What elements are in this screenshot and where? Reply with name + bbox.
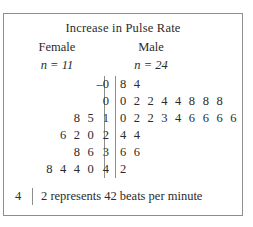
key-divider-rule: [32, 188, 33, 205]
stem-value: 4: [87, 161, 109, 178]
plot-key: 4 2 represents 42 beats per minute: [4, 186, 242, 207]
right-group-sample-size: n = 24: [116, 58, 186, 73]
stem-value: –0: [87, 76, 109, 93]
key-stem-value: 4: [11, 186, 25, 207]
table-row: –0 8 4: [4, 76, 242, 93]
stem-value: 2: [87, 127, 109, 144]
left-group-header: Female n = 11: [22, 40, 92, 73]
stem-leaf-rows: –0 8 4 0 0 2 2 4 4 8 8 8 8 5 1 0 2 2 3 4…: [4, 76, 242, 178]
right-leaves: 8 4: [120, 76, 142, 93]
stem-value: 0: [87, 93, 109, 110]
right-group-label: Male: [116, 40, 186, 55]
right-group-header: Male n = 24: [116, 40, 186, 73]
table-row: 8 4 4 0 4 2: [4, 161, 242, 178]
table-row: 8 5 1 0 2 2 3 4 6 6 6 6: [4, 110, 242, 127]
stem-value: 3: [87, 144, 109, 161]
stem-and-leaf-plot: Increase in Pulse Rate Female n = 11 Mal…: [3, 13, 243, 216]
right-leaves: 6 6: [120, 144, 142, 161]
left-group-label: Female: [22, 40, 92, 55]
right-leaves: 4 4: [120, 127, 142, 144]
right-leaves: 0 2 2 4 4 8 8 8: [120, 93, 225, 110]
plot-title: Increase in Pulse Rate: [4, 21, 242, 36]
right-leaves: 2: [120, 161, 128, 178]
table-row: 0 0 2 2 4 4 8 8 8: [4, 93, 242, 110]
table-row: 6 2 0 2 4 4: [4, 127, 242, 144]
table-row: 8 6 3 6 6: [4, 144, 242, 161]
stem-value: 1: [87, 110, 109, 127]
right-leaves: 0 2 2 3 4 6 6 6 6: [120, 110, 239, 127]
key-description: 2 represents 42 beats per minute: [41, 186, 202, 207]
left-group-sample-size: n = 11: [22, 58, 92, 73]
